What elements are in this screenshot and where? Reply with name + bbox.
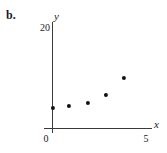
data-point bbox=[86, 101, 90, 105]
scatter-plot-figure: b. y x 20 0 5 bbox=[0, 0, 167, 153]
data-point bbox=[122, 76, 126, 80]
data-point bbox=[104, 93, 108, 97]
data-point bbox=[51, 106, 55, 110]
data-points-layer bbox=[0, 0, 167, 153]
data-point bbox=[67, 104, 71, 108]
